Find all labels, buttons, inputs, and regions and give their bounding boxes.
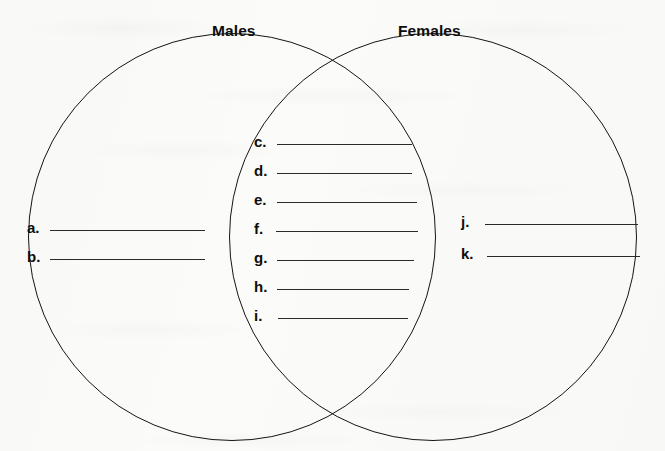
- answer-line-h[interactable]: [277, 289, 409, 290]
- answer-letter-f: f.: [254, 220, 263, 237]
- answer-line-i[interactable]: [278, 318, 408, 319]
- answer-line-d[interactable]: [277, 173, 412, 174]
- answer-row-i[interactable]: i.: [254, 307, 408, 324]
- answer-letter-b: b.: [27, 248, 40, 265]
- answer-line-a[interactable]: [50, 230, 205, 231]
- answer-letter-g: g.: [254, 249, 267, 266]
- answer-row-h[interactable]: h.: [254, 278, 409, 295]
- answer-letter-e: e.: [254, 191, 267, 208]
- answer-letter-d: d.: [254, 162, 267, 179]
- answer-row-a[interactable]: a.: [27, 219, 205, 236]
- answer-line-f[interactable]: [276, 231, 418, 232]
- answer-row-f[interactable]: f.: [254, 220, 418, 237]
- answer-row-e[interactable]: e.: [254, 191, 417, 208]
- answer-row-k[interactable]: k.: [461, 245, 640, 262]
- answer-letter-h: h.: [254, 278, 267, 295]
- answer-row-d[interactable]: d.: [254, 162, 412, 179]
- answer-row-b[interactable]: b.: [27, 248, 205, 265]
- answer-line-c[interactable]: [277, 144, 412, 145]
- worksheet-page: Males Females a. b. c. d. e. f. g. h. i.: [0, 0, 665, 451]
- venn-circle-females: [229, 33, 637, 441]
- answer-line-b[interactable]: [50, 259, 205, 260]
- answer-row-j[interactable]: j.: [461, 213, 638, 230]
- answer-letter-a: a.: [27, 219, 40, 236]
- answer-letter-k: k.: [461, 245, 474, 262]
- answer-letter-c: c.: [254, 133, 267, 150]
- answer-line-j[interactable]: [485, 224, 638, 225]
- answer-line-k[interactable]: [487, 256, 640, 257]
- answer-letter-i: i.: [254, 307, 262, 324]
- answer-letter-j: j.: [461, 213, 469, 230]
- answer-row-g[interactable]: g.: [254, 249, 414, 266]
- answer-row-c[interactable]: c.: [254, 133, 412, 150]
- answer-line-g[interactable]: [277, 260, 414, 261]
- answer-line-e[interactable]: [277, 202, 417, 203]
